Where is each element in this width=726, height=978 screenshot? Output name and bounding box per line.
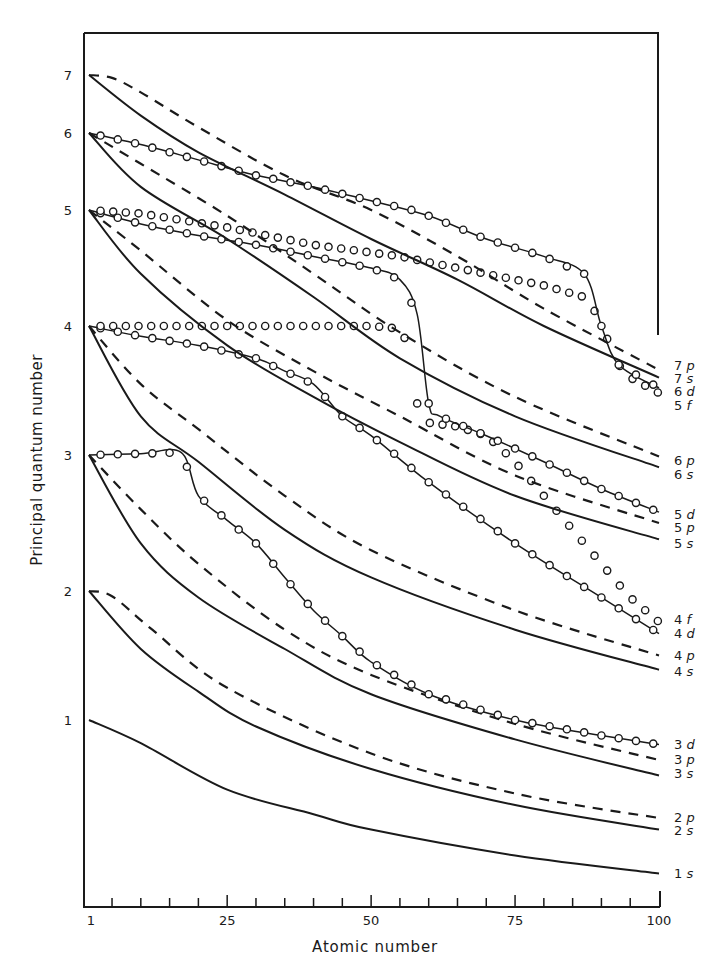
x-tick-label: 50 [363,913,380,928]
data-point [376,323,383,330]
data-point [270,362,277,369]
curve-4p [89,326,659,656]
data-point [149,335,156,342]
data-point [274,322,281,329]
data-point [211,322,218,329]
data-point [135,322,142,329]
data-point [650,740,657,747]
curve-label-4f: 4 f [674,612,693,627]
data-point [502,450,509,457]
data-point [615,605,622,612]
data-point [425,691,432,698]
data-point [408,681,415,688]
data-point [148,322,155,329]
data-point [388,252,395,259]
data-point [425,400,432,407]
data-point [477,515,484,522]
data-point [270,560,277,567]
y-tick-label: 6 [64,126,72,141]
data-point [149,223,156,230]
curve-label-3p: 3 p [674,752,695,767]
data-point [460,503,467,510]
y-tick-label: 3 [64,448,72,463]
data-point [654,617,661,624]
data-point [160,214,167,221]
curve-label-5s: 5 s [674,536,693,551]
data-point [511,244,518,251]
curve-label-3d: 3 d [674,737,695,752]
data-point [114,136,121,143]
data-point [122,322,129,329]
curve-label-5p: 5 p [674,520,695,535]
y-tick-label: 7 [64,68,72,83]
curve-label-1s: 1 s [674,866,693,881]
data-point [235,526,242,533]
data-point [183,340,190,347]
data-point [591,552,598,559]
data-point [249,322,256,329]
data-point [464,266,471,273]
curve-3s [89,455,659,776]
data-point [632,371,639,378]
data-point [540,492,547,499]
data-point [616,582,623,589]
data-point [321,186,328,193]
data-point [373,662,380,669]
data-point [442,415,449,422]
curve-label-5f: 5 f [674,398,693,413]
data-point [173,322,180,329]
data-point [654,389,661,396]
y-tick-label: 2 [64,584,72,599]
data-point [110,322,117,329]
data-point [529,249,536,256]
data-point [300,322,307,329]
data-point [511,540,518,547]
data-point [373,198,380,205]
data-point [321,393,328,400]
data-point [211,222,218,229]
data-point [218,347,225,354]
data-point [224,322,231,329]
data-point [615,361,622,368]
data-point [439,261,446,268]
data-point [356,424,363,431]
data-point [166,149,173,156]
data-point [224,224,231,231]
y-axis-title: Principal quantum number [22,300,52,620]
data-point [494,437,501,444]
data-point [304,378,311,385]
data-point [426,419,433,426]
curve-7s [89,75,659,378]
curve-2p [89,591,659,818]
data-point [183,230,190,237]
data-point [97,322,104,329]
data-point [581,583,588,590]
data-point [287,322,294,329]
data-point [110,208,117,215]
data-point [529,453,536,460]
curve-4d [89,325,659,634]
data-point [373,437,380,444]
data-point [338,245,345,252]
data-point [598,594,605,601]
data-point [274,234,281,241]
data-point [581,729,588,736]
data-point [452,264,459,271]
data-point [650,506,657,513]
data-point [391,450,398,457]
y-tick-label: 4 [64,319,72,334]
data-point [546,255,553,262]
data-point [131,219,138,226]
data-point [287,237,294,244]
chart-plot: 12550751001234567 7 p7 s6 d5 f6 p6 s5 d5… [0,0,726,978]
data-point [566,289,573,296]
data-point [363,322,370,329]
data-point [183,463,190,470]
data-point [339,259,346,266]
data-point [615,492,622,499]
data-point [529,719,536,726]
data-point [566,522,573,529]
data-point [356,262,363,269]
data-point [262,231,269,238]
curve-4f [97,322,662,624]
